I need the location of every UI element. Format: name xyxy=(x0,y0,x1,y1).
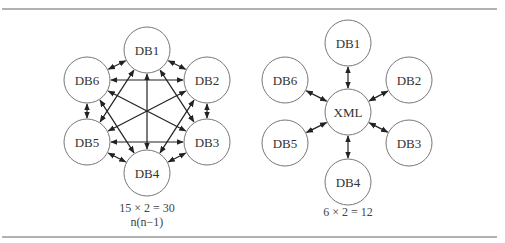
mesh-edge-db1-db6 xyxy=(108,61,125,70)
integration-diagram: DB1DB2DB3DB4DB5DB6 DB1DB2DB3DB4DB5DB6XML… xyxy=(0,0,505,243)
hub-edge-xml-db3 xyxy=(369,123,387,132)
left-node-db4-label: DB4 xyxy=(135,166,160,181)
right-node-db6-label: DB6 xyxy=(273,73,298,88)
right-node-db1: DB1 xyxy=(325,20,371,66)
left-node-db3-label: DB3 xyxy=(195,135,220,150)
right-node-db1-label: DB1 xyxy=(336,36,361,51)
left-node-db6-label: DB6 xyxy=(75,73,100,88)
mesh-edge-db1-db2 xyxy=(168,61,185,70)
right-node-db5-label: DB5 xyxy=(273,136,298,151)
left-node-db5-label: DB5 xyxy=(75,135,100,150)
right-node-db2-label: DB2 xyxy=(397,73,422,88)
right-node-db2: DB2 xyxy=(386,57,432,103)
left-caption-formula: 15 × 2 = 30 xyxy=(119,201,175,215)
right-node-db3: DB3 xyxy=(386,120,432,166)
left-node-db5: DB5 xyxy=(64,119,110,165)
right-caption-formula: 6 × 2 = 12 xyxy=(323,205,373,219)
left-node-db6: DB6 xyxy=(64,57,110,103)
left-node-db2-label: DB2 xyxy=(195,73,220,88)
left-node-db3: DB3 xyxy=(184,119,230,165)
right-node-xml-hub: XML xyxy=(325,89,371,135)
mesh-edge-db3-db4 xyxy=(168,153,185,162)
left-caption-general: n(n−1) xyxy=(131,215,164,229)
right-node-db6: DB6 xyxy=(262,57,308,103)
right-node-db4-label: DB4 xyxy=(336,175,361,190)
left-node-db1-label: DB1 xyxy=(135,43,160,58)
right-hub-nodes: DB1DB2DB3DB4DB5DB6XML xyxy=(262,20,432,205)
hub-edge-xml-db2 xyxy=(369,91,387,101)
right-node-db3-label: DB3 xyxy=(397,136,422,151)
left-node-db4: DB4 xyxy=(124,150,170,196)
right-node-db4: DB4 xyxy=(325,159,371,205)
right-node-db5: DB5 xyxy=(262,120,308,166)
left-node-db1: DB1 xyxy=(124,27,170,73)
hub-edge-xml-db5 xyxy=(307,123,327,133)
left-node-db2: DB2 xyxy=(184,57,230,103)
hub-edge-xml-db6 xyxy=(306,91,326,101)
mesh-edge-db4-db5 xyxy=(108,153,125,162)
right-node-xml-hub-label: XML xyxy=(334,105,363,120)
